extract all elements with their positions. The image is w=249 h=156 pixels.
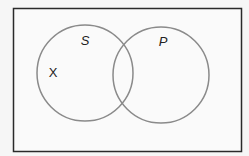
- venn-diagram: S P X: [0, 0, 249, 156]
- set-s-label: S: [81, 33, 90, 48]
- x-mark: X: [49, 65, 58, 80]
- set-p-label: P: [159, 34, 168, 49]
- universe-rectangle: [14, 9, 242, 152]
